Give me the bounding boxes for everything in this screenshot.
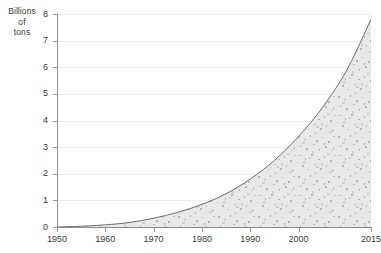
x-axis-line [57,227,372,228]
x-tick-mark-1990 [250,228,251,232]
y-tick-mark-2 [53,174,57,175]
y-tick-mark-5 [53,94,57,95]
x-tick-label-2000: 2000 [289,235,309,244]
x-tick-label-1970: 1970 [144,235,164,244]
y-tick-mark-4 [53,121,57,122]
y-tick-mark-8 [53,14,57,15]
x-tick-mark-1980 [202,228,203,232]
y-tick-mark-6 [53,67,57,68]
x-tick-label-1980: 1980 [192,235,212,244]
x-tick-label-2015: 2015 [361,235,381,244]
y-tick-label-6: 6 [26,63,48,72]
y-tick-label-2: 2 [26,169,48,178]
y-tick-mark-1 [53,200,57,201]
y-tick-label-1: 1 [26,196,48,205]
y-tick-label-3: 3 [26,143,48,152]
plot-area [57,14,371,227]
y-tick-mark-3 [53,147,57,148]
y-tick-label-5: 5 [26,89,48,98]
x-tick-mark-1970 [154,228,155,232]
x-tick-mark-2015 [371,228,372,232]
x-tick-mark-1960 [105,228,106,232]
y-tick-label-7: 7 [26,36,48,45]
y-tick-mark-7 [53,41,57,42]
x-tick-label-1990: 1990 [240,235,260,244]
y-tick-label-8: 8 [26,10,48,19]
x-tick-label-1950: 1950 [47,235,67,244]
y-tick-label-4: 4 [26,116,48,125]
x-tick-mark-2000 [299,228,300,232]
x-tick-label-1960: 1960 [95,235,115,244]
y-axis-line [57,14,58,228]
y-tick-label-0: 0 [26,223,48,232]
x-tick-mark-1950 [57,228,58,232]
area-series-plastic-production [57,14,371,227]
